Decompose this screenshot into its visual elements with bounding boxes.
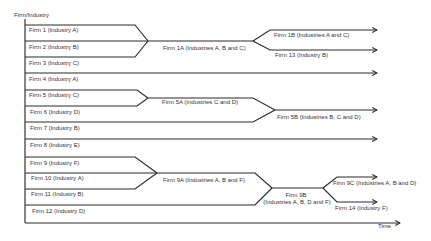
firm-industry-evolution-diagram: Firm/Industry Time Firm 1 (Industry A) F… bbox=[0, 0, 431, 241]
firm-label-10: Firm 10 (Industry A) bbox=[31, 175, 84, 181]
firm-label-3: Firm 3 (Industry C) bbox=[29, 60, 79, 66]
firm-label-5: Firm 5 (Industry C) bbox=[29, 92, 79, 98]
firm-label-6: Firm 6 (Industry D) bbox=[30, 109, 80, 115]
firm-label-5b: Firm 5B (Industries B, C and D) bbox=[277, 114, 361, 120]
firm-label-12: Firm 12 (Industry D) bbox=[32, 208, 85, 214]
firm-label-1: Firm 1 (Industry A) bbox=[29, 27, 78, 33]
firm-label-9: Firm 9 (Industry F) bbox=[30, 160, 79, 166]
firm-label-7: Firm 7 (Industry B) bbox=[30, 125, 80, 131]
firm-label-9a: Firm 9A (Industries A, B and F) bbox=[163, 177, 245, 183]
firm-label-11: Firm 11 (Industry B) bbox=[31, 191, 84, 197]
firm-label-9b-name: Firm 9B bbox=[286, 192, 307, 198]
lifeline-firm-13 bbox=[253, 41, 377, 50]
firm-label-14: Firm 14 (Industry F) bbox=[335, 205, 388, 211]
firm-label-9b-industries: (Industries A, B, D and F) bbox=[263, 199, 330, 205]
lifeline-firm-14 bbox=[323, 188, 377, 202]
firm-label-4: Firm 4 (Industry A) bbox=[29, 76, 78, 82]
firm-label-9c: Firm 9C (Industries A, B and D) bbox=[333, 180, 416, 186]
firm-label-1a: Firm 1A (Industries A, B and C) bbox=[163, 45, 246, 51]
firm-label-8: Firm 8 (Industry E) bbox=[30, 142, 80, 148]
firm-label-2: Firm 2 (Industry B) bbox=[29, 44, 79, 50]
firm-label-1b: Firm 1B (Industries A and C) bbox=[274, 32, 349, 38]
y-axis-label: Firm/Industry bbox=[14, 12, 49, 18]
firm-label-5a: Firm 5A (Industries C and D) bbox=[162, 99, 238, 105]
x-axis-label: Time bbox=[378, 223, 391, 229]
firm-label-13: Firm 13 (Industry B) bbox=[275, 52, 328, 58]
lifeline-firm-6 bbox=[25, 98, 148, 106]
